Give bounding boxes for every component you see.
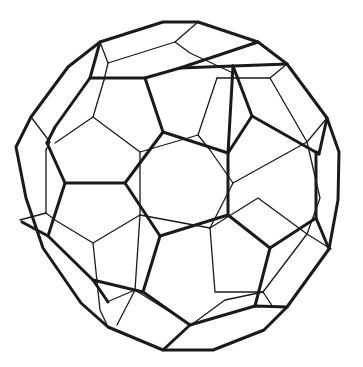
visible-edges	[22, 42, 329, 350]
truncated-icosahedron-drawing	[0, 0, 363, 367]
